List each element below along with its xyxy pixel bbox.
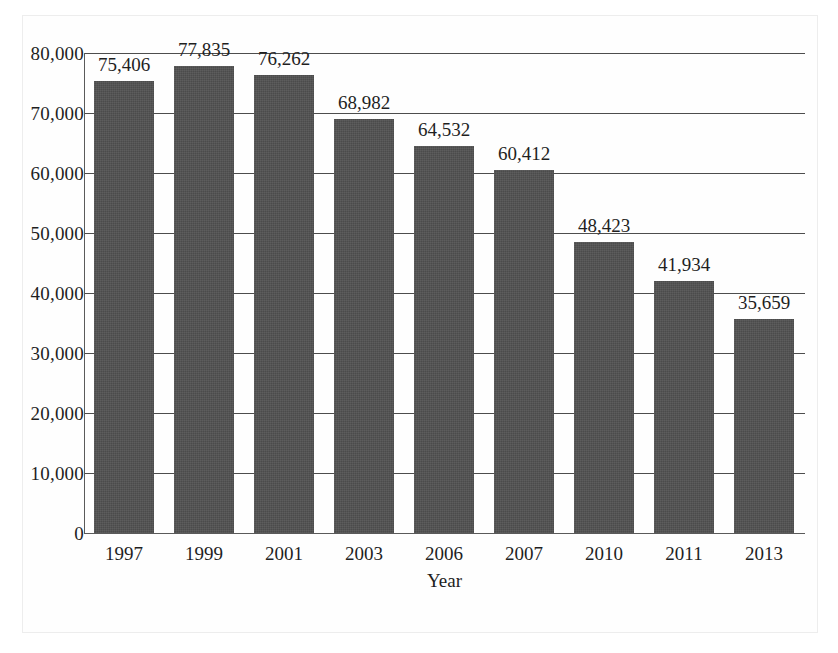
bar-2006[interactable] xyxy=(414,146,474,533)
x-tick-label-1999: 1999 xyxy=(164,543,244,565)
bars-layer: 75,406 77,835 76,262 68,982 64,532 60,41… xyxy=(84,53,805,533)
bar-slot-1999: 77,835 xyxy=(164,53,244,533)
x-axis-title: Year xyxy=(84,570,805,592)
y-tick-label-60000: 60,000 xyxy=(6,164,84,183)
y-tick-label-40000: 40,000 xyxy=(6,284,84,303)
y-tick-label-30000: 30,000 xyxy=(6,344,84,363)
bar-slot-2001: 76,262 xyxy=(244,53,324,533)
y-axis-tick-labels: 80,000 70,000 60,000 50,000 40,000 30,00… xyxy=(0,0,84,653)
x-tick-label-1997: 1997 xyxy=(84,543,164,565)
y-tick-label-50000: 50,000 xyxy=(6,224,84,243)
bar-value-label-2013: 35,659 xyxy=(708,293,820,312)
x-tick-label-2011: 2011 xyxy=(644,543,724,565)
bar-2011[interactable] xyxy=(654,281,714,533)
bar-slot-2007: 60,412 xyxy=(484,53,564,533)
bar-1999[interactable] xyxy=(174,66,234,533)
bar-2013[interactable] xyxy=(734,319,794,533)
bar-1997[interactable] xyxy=(94,81,154,533)
y-tick-label-10000: 10,000 xyxy=(6,464,84,483)
x-tick-label-2013: 2013 xyxy=(724,543,804,565)
x-tick-label-2010: 2010 xyxy=(564,543,644,565)
bar-2003[interactable] xyxy=(334,119,394,533)
x-tick-label-2006: 2006 xyxy=(404,543,484,565)
x-tick-label-2003: 2003 xyxy=(324,543,404,565)
y-tick-label-20000: 20,000 xyxy=(6,404,84,423)
x-tick-label-2001: 2001 xyxy=(244,543,324,565)
bar-2010[interactable] xyxy=(574,242,634,533)
y-tick-label-70000: 70,000 xyxy=(6,104,84,123)
y-tick-label-0: 0 xyxy=(6,524,84,543)
bar-2007[interactable] xyxy=(494,170,554,533)
bar-slot-1997: 75,406 xyxy=(84,53,164,533)
bar-slot-2013: 35,659 xyxy=(724,53,804,533)
bar-slot-2010: 48,423 xyxy=(564,53,644,533)
bar-slot-2006: 64,532 xyxy=(404,53,484,533)
x-tick-label-2007: 2007 xyxy=(484,543,564,565)
bar-chart: 80,000 70,000 60,000 50,000 40,000 30,00… xyxy=(0,0,838,653)
x-axis-line xyxy=(84,533,805,534)
bar-2001[interactable] xyxy=(254,75,314,533)
